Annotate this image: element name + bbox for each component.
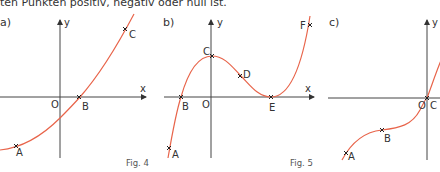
panel-a: a) y x O A B C Fig. 4 xyxy=(0,0,150,172)
point-b-label: B xyxy=(384,133,391,144)
point-b-label: B xyxy=(182,101,189,112)
point-b-label: B xyxy=(82,101,89,112)
curve xyxy=(168,16,310,158)
fig-5-caption: Fig. 5 xyxy=(290,158,313,168)
point-e-label: E xyxy=(269,102,275,113)
graph-b: y x O A B C D E F xyxy=(150,0,320,172)
origin-label: O xyxy=(51,99,59,110)
fig-4-caption: Fig. 4 xyxy=(126,158,149,168)
y-label: y xyxy=(432,17,438,28)
y-label: y xyxy=(217,17,223,28)
panel-b: b) y x O A B C D E F Fig. 5 xyxy=(150,0,320,172)
point-a-label: A xyxy=(348,151,355,162)
point-d-label: D xyxy=(243,69,251,80)
panel-c: c) y O C A B xyxy=(320,0,440,172)
x-label: x xyxy=(305,83,311,94)
origin-label: O xyxy=(418,100,426,111)
origin-label: O xyxy=(202,99,210,110)
x-label: x xyxy=(140,83,146,94)
graph-c: y O C A B xyxy=(320,0,440,172)
point-f-label: F xyxy=(300,20,306,31)
point-c-label: C xyxy=(129,29,136,40)
point-a-label: A xyxy=(172,149,179,160)
graph-a: y x O A B C xyxy=(0,0,150,172)
point-c-label: C xyxy=(203,46,210,57)
curve xyxy=(0,14,134,150)
y-label: y xyxy=(64,17,70,28)
point-c-label: C xyxy=(430,100,437,111)
point-a-label: A xyxy=(16,147,23,158)
